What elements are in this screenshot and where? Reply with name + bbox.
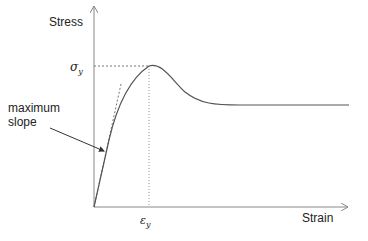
yield-strain-label: εy [140,214,150,229]
annotation-line-2: slope [8,115,60,129]
y-axis-label: Stress [49,15,83,29]
stress-strain-curve [94,65,349,207]
max-slope-annotation: maximum slope [8,101,60,129]
yield-stress-label: σy [70,60,83,76]
epsilon-subscript: y [146,220,151,229]
annotation-line-1: maximum [8,101,60,115]
sigma-symbol: σ [70,60,78,74]
annotation-arrow [50,128,104,151]
sigma-subscript: y [78,67,83,76]
x-axis-label: Strain [302,211,333,225]
